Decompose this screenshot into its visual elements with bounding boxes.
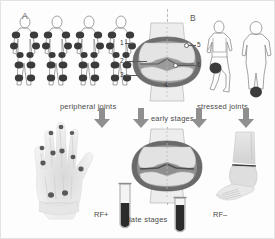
knee-leader-3 — [125, 75, 138, 76]
knee-label-3: 3 — [120, 71, 124, 78]
knee-leader-dot-6 — [173, 63, 178, 68]
panel-b-body-figures — [201, 19, 273, 101]
label-early-stages: early stages — [151, 114, 194, 123]
panel-letter-b: B — [190, 13, 196, 23]
knee-label-2: 2 — [120, 57, 124, 64]
xray-foot-ankle — [214, 132, 275, 204]
knee-leader-2 — [125, 61, 147, 62]
panel-a-body-figures — [7, 15, 135, 101]
knee-leader-dot-5 — [184, 43, 189, 48]
figure-canvas: A — [0, 0, 275, 239]
knee-leader-1 — [125, 43, 135, 44]
label-rf-positive: RF+ — [94, 210, 108, 219]
arrow-down-stressed — [238, 108, 256, 128]
knee-label-4: 4 — [164, 81, 168, 88]
knee-label-5: 5 — [197, 41, 201, 48]
label-rf-negative: RF– — [213, 210, 227, 219]
label-late-stages: late stages — [129, 215, 167, 224]
knee-diagram-late — [125, 129, 209, 203]
test-tube-center — [172, 196, 188, 238]
knee-label-1: 1 — [120, 39, 124, 46]
arrow-down-early-left — [133, 108, 151, 128]
knee-leader-6 — [177, 65, 196, 66]
knee-label-6: 6 — [197, 61, 201, 68]
xray-hand — [15, 117, 123, 221]
arrow-down-early-right — [191, 108, 209, 128]
